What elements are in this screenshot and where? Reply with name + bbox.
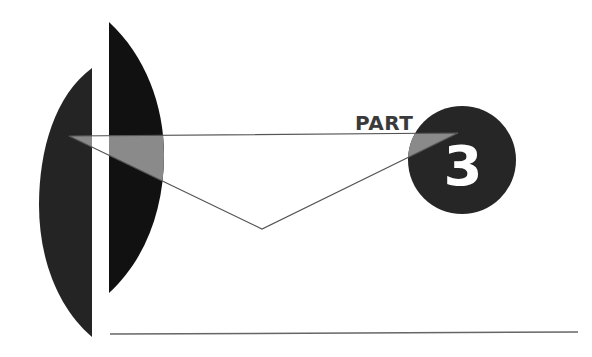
part-label: PART [355,113,413,133]
bottom-rule [110,332,578,334]
decorative-graphic [0,0,592,357]
part-number: 3 [440,138,486,194]
left-half-ellipse-shape [39,68,92,337]
part-divider-artwork: PART 3 [0,0,592,357]
